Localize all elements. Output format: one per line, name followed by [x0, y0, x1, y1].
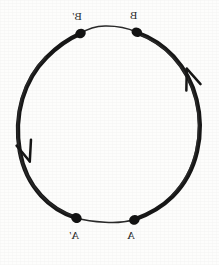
node-dot-a-prime — [70, 211, 84, 224]
diagram-canvas: B′ B A′ A — [0, 0, 219, 265]
node-dot-b — [130, 26, 143, 39]
node-label-b-prime: B′ — [72, 11, 82, 22]
node-dot-a — [128, 213, 142, 226]
circle-diagram — [0, 0, 219, 265]
node-label-b: B — [130, 10, 137, 21]
node-label-a-prime: A′ — [69, 230, 79, 241]
node-label-a: A — [127, 230, 135, 241]
arc-top-thin — [81, 26, 137, 34]
arc-bottom-thin — [77, 218, 135, 222]
arc-left-thick — [18, 34, 80, 218]
arc-left-texture — [17, 57, 74, 217]
arc-right-thick — [135, 32, 200, 219]
arc-right-texture — [139, 34, 199, 196]
